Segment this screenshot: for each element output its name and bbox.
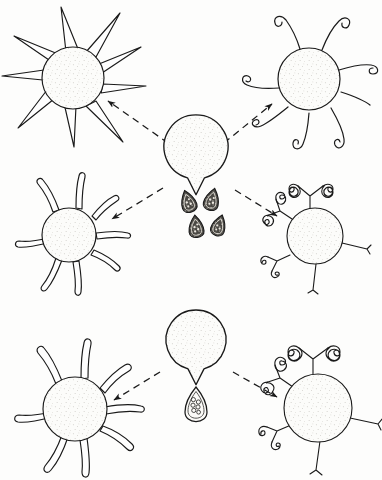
- cell-body: [284, 374, 352, 442]
- spore-differentiation-diagram: [0, 0, 382, 480]
- cell-body: [42, 47, 104, 109]
- cell-body: [43, 377, 107, 441]
- cell-body: [42, 208, 96, 262]
- cell-body: [278, 48, 340, 110]
- cell-body: [287, 208, 343, 264]
- figure-canvas: Spore release and cell-type differentiat…: [0, 0, 382, 480]
